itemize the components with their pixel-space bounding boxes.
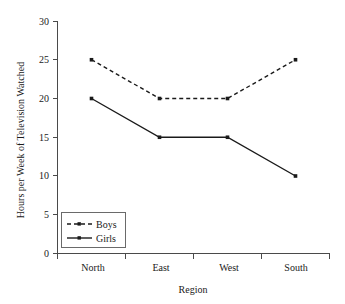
y-tick-label-0: 0 (44, 248, 49, 259)
y-tick-label-25: 25 (39, 54, 49, 65)
data-point (294, 174, 298, 178)
data-point (90, 97, 94, 101)
y-tick-label-30: 30 (39, 16, 49, 27)
x-axis: North East West South Region (58, 254, 330, 296)
data-point (226, 97, 230, 101)
series-girls-line (92, 99, 296, 177)
x-tick-label-south: South (284, 262, 307, 273)
data-point (226, 135, 230, 139)
data-point (158, 97, 162, 101)
y-axis-title: Hours per Week of Television Watched (15, 62, 26, 218)
legend-label-girls: Girls (96, 233, 116, 244)
x-tick-label-west: West (219, 262, 239, 273)
legend-marker-boys (78, 222, 81, 225)
x-axis-title: Region (179, 284, 208, 295)
y-tick-label-20: 20 (39, 93, 49, 104)
series-boys-markers (90, 58, 298, 100)
y-tick-label-10: 10 (39, 170, 49, 181)
legend-label-boys: Boys (96, 219, 117, 230)
line-chart: 30 25 20 15 10 5 0 Hours per Week of Tel… (0, 0, 345, 304)
data-point (158, 135, 162, 139)
series-girls (90, 97, 298, 178)
x-tick-label-east: East (152, 262, 169, 273)
y-tick-label-15: 15 (39, 132, 49, 143)
series-boys (90, 58, 298, 100)
series-boys-line (92, 60, 296, 99)
y-tick-label-5: 5 (44, 209, 49, 220)
chart-canvas: 30 25 20 15 10 5 0 Hours per Week of Tel… (0, 0, 345, 304)
y-axis: 30 25 20 15 10 5 0 Hours per Week of Tel… (15, 16, 58, 260)
x-tick-label-north: North (81, 262, 104, 273)
data-point (90, 58, 94, 62)
data-point (294, 58, 298, 62)
legend: Boys Girls (62, 213, 126, 248)
legend-marker-girls (78, 236, 81, 239)
